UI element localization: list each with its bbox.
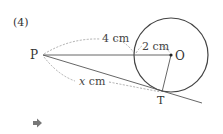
dashed-brace-xcm-left bbox=[44, 57, 75, 81]
measure-xcm: x cm bbox=[79, 75, 106, 88]
right-arrow-icon bbox=[33, 119, 42, 128]
center-dot bbox=[169, 53, 172, 56]
dashed-brace-4cm-left bbox=[44, 39, 100, 54]
radius-OT bbox=[162, 55, 171, 92]
problem-number: (4) bbox=[13, 16, 29, 29]
label-O: O bbox=[175, 49, 185, 63]
unit-cm: cm bbox=[85, 75, 106, 88]
measure-2cm: 2 cm bbox=[142, 40, 170, 53]
label-T: T bbox=[157, 94, 165, 107]
diagram-canvas: (4) P O T 4 cm 2 cm x cm bbox=[0, 0, 223, 134]
label-P: P bbox=[30, 48, 38, 62]
measure-4cm: 4 cm bbox=[102, 32, 130, 45]
